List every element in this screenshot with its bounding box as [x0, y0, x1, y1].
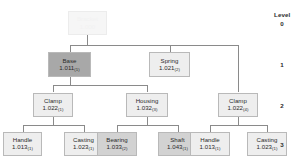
node-handle-a[interactable]: Handle 1.013(1) [3, 132, 42, 157]
node-root-part: 1.000 [80, 23, 96, 31]
edge-clamp-a-bus [23, 125, 84, 126]
node-casting-b-part: 1.023(1) [257, 143, 278, 151]
node-casting-a-name: Casting [73, 136, 94, 143]
node-spring-name: Spring [161, 57, 179, 64]
node-clamp-a-part: 1.022(1) [43, 104, 64, 112]
level-legend-1: 1 [276, 61, 288, 68]
node-handle-a-name: Handle [13, 136, 33, 143]
node-handle-a-part: 1.013(1) [12, 143, 33, 151]
node-clamp-a[interactable]: Clamp 1.022(1) [33, 93, 73, 118]
node-clamp-b-part: 1.022(4) [228, 104, 249, 112]
edge-root-to-clamp-b [238, 45, 239, 93]
edge-housing-bus [117, 125, 178, 126]
node-bearing[interactable]: Bearing 1.033(2) [97, 132, 137, 157]
node-root[interactable]: Bracket 1.000 [68, 11, 107, 35]
level-legend-0: 0 [276, 20, 288, 27]
edge-root-bus [70, 45, 239, 46]
edge-root-to-spring [170, 45, 171, 53]
node-bearing-name: Bearing [106, 136, 127, 143]
node-clamp-b-name: Clamp [229, 97, 247, 104]
edge-root-stem [87, 35, 88, 45]
node-clamp-a-name: Clamp [44, 97, 62, 104]
bom-tree-diagram: Bracket 1.000 Base 1.011(1) Spring 1.021… [0, 0, 303, 167]
node-casting-b-name: Casting [256, 136, 277, 143]
level-legend-2: 2 [276, 102, 288, 109]
node-handle-b[interactable]: Handle 1.013(1) [190, 132, 230, 157]
node-base-part: 1.011(1) [59, 64, 79, 72]
edge-base-bus [53, 85, 147, 86]
node-root-name: Bracket [77, 15, 98, 22]
node-bearing-part: 1.033(2) [107, 143, 128, 151]
node-casting-a-part: 1.023(1) [73, 143, 94, 151]
node-base[interactable]: Base 1.011(1) [48, 52, 91, 77]
level-legend-title: Level [274, 11, 290, 18]
edge-base-to-clamp-a [53, 85, 54, 92]
node-base-name: Base [62, 57, 76, 64]
node-housing-part: 1.032(3) [137, 104, 158, 112]
node-spring[interactable]: Spring 1.021(2) [149, 52, 190, 77]
node-housing[interactable]: Housing 1.032(3) [126, 93, 168, 118]
edge-base-to-housing [147, 85, 148, 92]
level-legend-3: 3 [276, 141, 288, 148]
node-spring-part: 1.021(2) [159, 64, 180, 72]
node-handle-b-name: Handle [200, 136, 220, 143]
node-shaft-part: 1.043(1) [167, 143, 188, 151]
edge-clamp-b-bus [210, 125, 267, 126]
node-clamp-b[interactable]: Clamp 1.022(4) [218, 93, 258, 118]
node-shaft-name: Shaft [170, 136, 184, 143]
node-handle-b-part: 1.013(1) [200, 143, 221, 151]
node-housing-name: Housing [136, 97, 159, 104]
edge-root-to-base [70, 45, 71, 53]
